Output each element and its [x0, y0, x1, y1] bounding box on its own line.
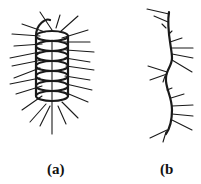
panel-a-label: (a) — [47, 161, 65, 178]
panel-b-filament — [147, 9, 193, 142]
panel-a-helix — [10, 12, 94, 134]
filament-backbone — [166, 12, 172, 134]
panel-b-label: (b — [160, 161, 173, 178]
diagram-figure — [0, 0, 201, 184]
